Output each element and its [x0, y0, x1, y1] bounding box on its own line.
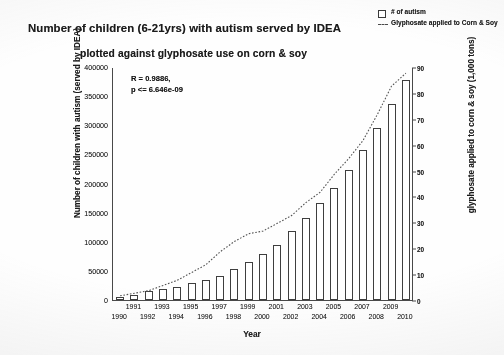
y-right-tick-mark: [412, 301, 416, 302]
y-right-tick-label: 60: [417, 142, 424, 149]
chart-legend: # of autism Glyphosate applied to Corn &…: [378, 8, 500, 28]
y-right-tick-label: 40: [417, 194, 424, 201]
y-right-tick-label: 80: [417, 90, 424, 97]
dashed-line-icon: [378, 19, 391, 25]
x-tick-label: 1999: [240, 303, 255, 310]
x-tick-label: 2004: [311, 313, 326, 320]
x-tick-label: 2003: [297, 303, 312, 310]
y-left-tick-label: 150000: [84, 210, 108, 218]
y-axis-left-title: Number of children with autism (served b…: [73, 23, 83, 223]
x-tick-label: 2010: [397, 313, 412, 320]
y-right-tick-mark: [412, 68, 416, 69]
y-right-tick-label: 0: [417, 298, 421, 305]
legend-item-autism: # of autism: [378, 8, 500, 18]
x-tick-label: 1997: [211, 303, 226, 310]
y-axis-right-title: glyphosate applied to corn & soy (1,000 …: [467, 25, 477, 225]
x-tick-label: 2006: [340, 313, 355, 320]
y-axis-right-line: [412, 68, 413, 301]
y-left-tick-label: 250000: [84, 151, 108, 159]
x-tick-label: 1992: [140, 313, 155, 320]
y-axis-left-ticks: 0500001000001500002000002500003000003500…: [58, 68, 108, 301]
x-tick-label: 1998: [226, 313, 241, 320]
x-tick-label: 1995: [183, 303, 198, 310]
y-left-tick-label: 50000: [88, 268, 108, 276]
y-right-tick-label: 20: [417, 246, 424, 253]
line-series-glyphosate: [113, 68, 413, 301]
y-right-tick-mark: [412, 249, 416, 250]
chart-page: Number of children (6-21yrs) with autism…: [0, 0, 504, 355]
x-tick-label: 1996: [197, 313, 212, 320]
y-left-tick-label: 400000: [84, 64, 108, 72]
legend-item-glyphosate: Glyphosate applied to Corn & Soy: [378, 19, 500, 27]
y-right-tick-label: 70: [417, 116, 424, 123]
x-tick-label: 1993: [154, 303, 169, 310]
y-right-tick-mark: [412, 119, 416, 120]
y-left-tick-label: 300000: [84, 122, 108, 130]
legend-label-glyphosate: Glyphosate applied to Corn & Soy: [391, 19, 498, 27]
y-axis-right-ticks: 0102030405060708090: [417, 68, 441, 301]
x-tick-label: 2008: [369, 313, 384, 320]
plot-area: [112, 68, 412, 301]
x-tick-label: 1991: [126, 303, 141, 310]
x-tick-label: 2001: [269, 303, 284, 310]
x-axis-title: Year: [0, 329, 504, 339]
y-right-tick-label: 30: [417, 220, 424, 227]
x-tick-label: 2002: [283, 313, 298, 320]
y-left-tick-label: 350000: [84, 93, 108, 101]
chart-subtitle-line-2: plotted against glyphosate use on corn &…: [80, 48, 307, 59]
x-tick-label: 1990: [111, 313, 126, 320]
x-tick-label: 2007: [354, 303, 369, 310]
x-tick-label: 2009: [383, 303, 398, 310]
y-left-tick-label: 200000: [84, 181, 108, 189]
y-right-tick-mark: [412, 145, 416, 146]
y-right-tick-mark: [412, 223, 416, 224]
y-left-tick-label: 0: [104, 297, 108, 305]
open-square-icon: [378, 8, 391, 18]
y-right-tick-label: 50: [417, 168, 424, 175]
y-left-tick-label: 100000: [84, 239, 108, 247]
y-right-tick-mark: [412, 171, 416, 172]
y-right-tick-mark: [412, 197, 416, 198]
legend-label-autism: # of autism: [391, 8, 426, 16]
y-right-tick-label: 90: [417, 65, 424, 72]
x-axis-ticks: 1990199119921993199419951996199719981999…: [112, 303, 412, 325]
y-right-tick-mark: [412, 93, 416, 94]
x-tick-label: 2000: [254, 313, 269, 320]
x-tick-label: 2005: [326, 303, 341, 310]
x-tick-label: 1994: [169, 313, 184, 320]
y-right-tick-mark: [412, 275, 416, 276]
y-right-tick-label: 10: [417, 272, 424, 279]
